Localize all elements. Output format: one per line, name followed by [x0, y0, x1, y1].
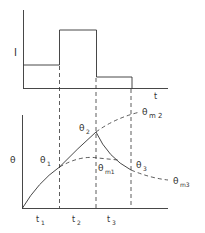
- svg-text:t: t: [72, 215, 75, 224]
- svg-text:m3: m3: [180, 181, 190, 188]
- current-step-profile: [24, 30, 133, 89]
- svg-text:t: t: [107, 215, 110, 224]
- theta2-label: θ 2: [79, 123, 90, 135]
- t2-label: t 2: [72, 215, 81, 226]
- theta-m2-curve: [96, 112, 140, 132]
- current-axis-label: I: [14, 47, 17, 58]
- svg-text:m 2: m 2: [149, 112, 163, 120]
- svg-text:θ: θ: [142, 107, 148, 117]
- svg-text:3: 3: [112, 219, 116, 226]
- svg-text:2: 2: [86, 128, 90, 135]
- t3-label: t 3: [107, 215, 116, 226]
- svg-text:t: t: [36, 215, 39, 224]
- current-plot: [23, 10, 168, 89]
- svg-text:1: 1: [41, 219, 45, 226]
- svg-text:θ: θ: [136, 160, 142, 170]
- time-axis-label: t: [154, 92, 157, 101]
- time-markers: [60, 66, 132, 208]
- svg-text:1: 1: [47, 160, 51, 167]
- theta-m3-curve: [131, 170, 168, 180]
- t1-label: t 1: [36, 215, 45, 226]
- theta-m2-label: θ m 2: [142, 107, 163, 120]
- theta1-label: θ 1: [40, 155, 51, 167]
- svg-text:3: 3: [143, 165, 147, 172]
- svg-text:2: 2: [77, 219, 81, 226]
- svg-text:θ: θ: [79, 123, 85, 133]
- svg-text:m1: m1: [105, 168, 115, 175]
- svg-text:θ: θ: [173, 176, 179, 186]
- svg-text:θ: θ: [98, 163, 104, 173]
- temperature-curve-phase2: [60, 132, 97, 167]
- theta-m3-label: θ m3: [173, 176, 190, 188]
- heating-diagram: I t θ θ 1 θ 2 θ 3 θ m1 θ m 2: [0, 0, 205, 233]
- theta3-label: θ 3: [136, 160, 147, 172]
- theta-m1-label: θ m1: [98, 163, 115, 175]
- temperature-curve-phase1: [23, 167, 60, 208]
- svg-text:θ: θ: [40, 155, 46, 165]
- theta-axis-label: θ: [10, 155, 16, 165]
- theta-m1-curve: [60, 157, 119, 167]
